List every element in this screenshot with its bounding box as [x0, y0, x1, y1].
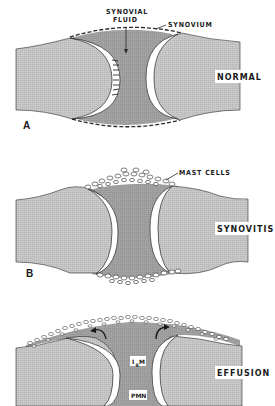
- label-synovial: SYNOVIAL: [106, 8, 148, 16]
- label-fluid: FLUID: [113, 16, 138, 24]
- label-pmn: PMN: [131, 392, 146, 399]
- label-igm-m: M: [139, 358, 145, 365]
- synovium-leader: [156, 25, 166, 29]
- label-igm-i: I: [132, 358, 134, 365]
- left-bone: [16, 336, 118, 406]
- panel-a-normal: SYNOVIAL FLUID SYNOVIUM NORMAL A: [16, 8, 262, 131]
- panel-c-effusion: I g M PMN EFFUSION: [16, 315, 270, 406]
- panel-b-synovitis: MAST CELLS SYNOVITIS B: [16, 168, 274, 285]
- label-synovium: SYNOVIUM: [168, 21, 213, 29]
- state-label-effusion: EFFUSION: [217, 369, 270, 378]
- label-mast-cells: MAST CELLS: [179, 169, 231, 177]
- state-label-normal: NORMAL: [217, 73, 262, 82]
- mast-cells-leader: [166, 173, 178, 180]
- panel-letter-a: A: [23, 120, 30, 131]
- panel-letter-b: B: [26, 268, 33, 279]
- joint-diagram: SYNOVIAL FLUID SYNOVIUM NORMAL A: [0, 0, 275, 406]
- state-label-synovitis: SYNOVITIS: [217, 225, 274, 234]
